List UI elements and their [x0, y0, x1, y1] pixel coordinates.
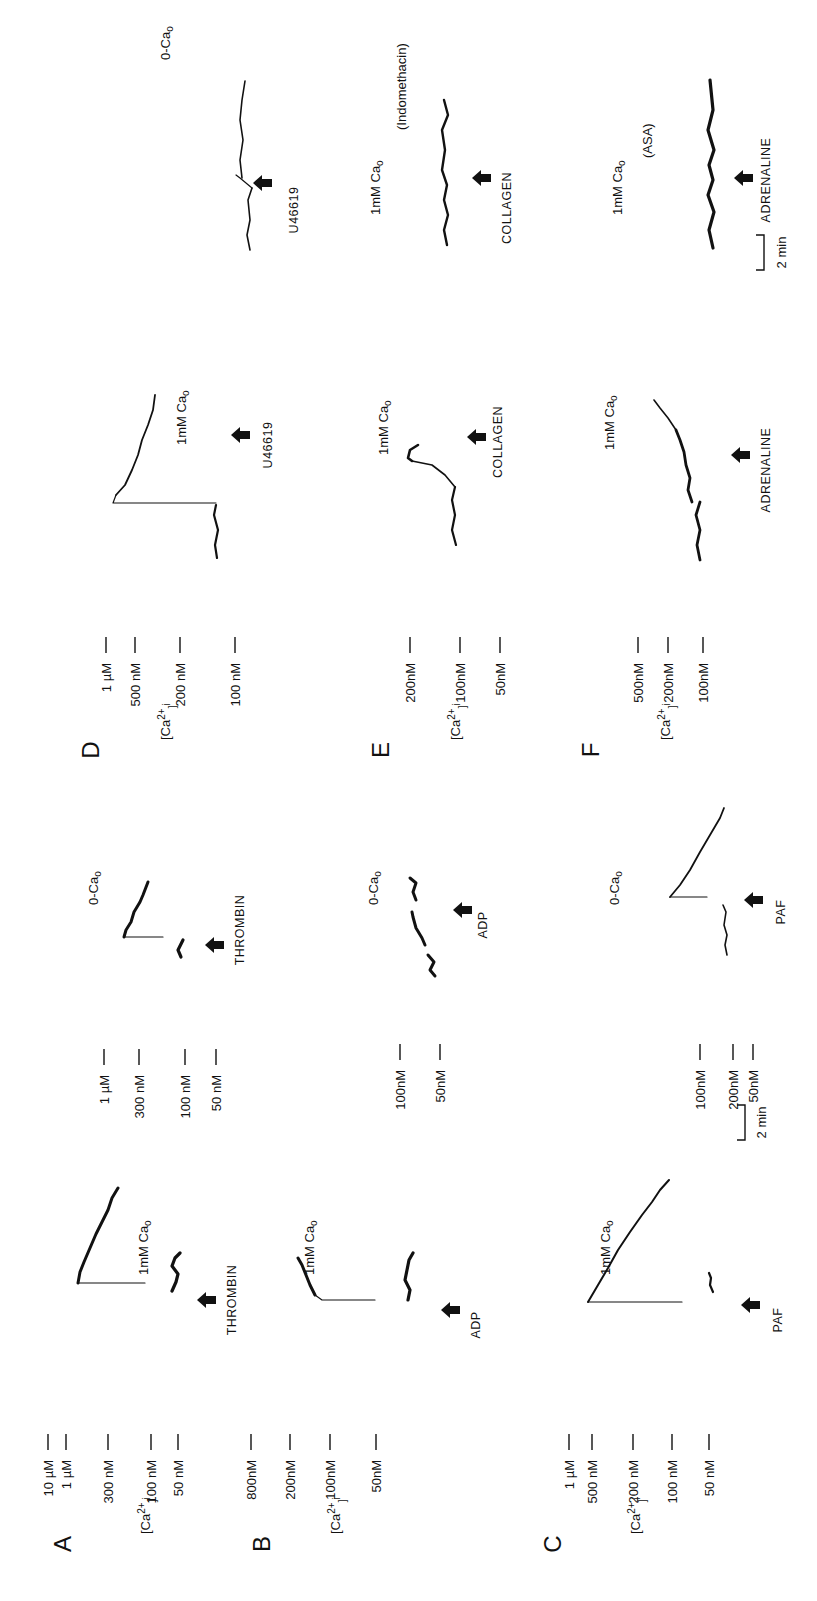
time-scale-bars: 2 min2 min — [737, 235, 789, 1140]
condition-label: 0-Cao — [366, 871, 383, 905]
agonist-arrows — [197, 170, 763, 1318]
tick-label: 50nM — [746, 1070, 761, 1103]
up-arrow-icon — [453, 902, 472, 918]
calcium-trace — [405, 1253, 413, 1300]
tick-label: 1 µM — [59, 1460, 74, 1489]
up-arrow-icon — [731, 447, 750, 463]
tick-label: 100nM — [693, 1070, 708, 1110]
tick-label: 300 nM — [101, 1460, 116, 1503]
condition-label: 1mM Cao — [376, 400, 393, 455]
panel-letter-c: C — [539, 1535, 566, 1552]
condition-label: (Indomethacin) — [394, 43, 409, 130]
up-arrow-icon — [231, 427, 250, 443]
tick-label: 300 nM — [132, 1075, 147, 1118]
tick-label: 1 µM — [562, 1460, 577, 1489]
calcium-trace — [412, 912, 425, 945]
condition-label: 1mM Cao — [136, 1220, 153, 1275]
condition-label: 1mM Cao — [598, 1220, 615, 1275]
figure-svg: 10 µM1 µM300 nM100 nM50 nM800nM200nM100n… — [0, 0, 817, 1601]
calcium-trace — [452, 487, 456, 545]
condition-label: 1mM Cao — [368, 160, 385, 215]
time-scale-label: 2 min — [754, 1107, 769, 1139]
calcium-trace — [676, 430, 692, 502]
tick-label: 200nM — [403, 663, 418, 703]
condition-label: 0-Cao — [607, 871, 624, 905]
tick-label: 800nM — [244, 1460, 259, 1500]
calcium-trace — [247, 188, 252, 250]
calcium-trace — [116, 395, 155, 495]
tick-label: 50 nM — [702, 1460, 717, 1496]
up-arrow-icon — [472, 170, 491, 186]
condition-label: (ASA) — [640, 123, 655, 158]
axis-ticks: 10 µM1 µM300 nM100 nM50 nM800nM200nM100n… — [41, 637, 761, 1503]
text-labels: A[Ca2+]iB[Ca2+]iC[Ca2+]iD[Ca2+]iE[Ca2+]i… — [49, 26, 788, 1553]
ca-concentration-ylabel: [Ca2+]i — [656, 703, 678, 740]
tick-label: 100 nM — [178, 1075, 193, 1118]
calcium-trace — [236, 175, 252, 188]
agonist-label: THROMBIN — [233, 895, 247, 966]
tick-label: 100nM — [696, 663, 711, 703]
tick-label: 100nM — [453, 663, 468, 703]
panel-letter-a: A — [49, 1536, 76, 1552]
calcium-trace — [240, 81, 245, 178]
calcium-trace — [696, 502, 700, 560]
calcium-trace — [709, 1273, 713, 1292]
condition-label: 1mM Cao — [302, 1220, 319, 1275]
panel-letter-b: B — [248, 1536, 275, 1552]
tick-label: 50 nM — [209, 1075, 224, 1111]
figure-canvas: 10 µM1 µM300 nM100 nM50 nM800nM200nM100n… — [0, 0, 817, 1601]
agonist-label: ADRENALINE — [759, 428, 773, 513]
tick-label: 100 nM — [144, 1460, 159, 1503]
up-arrow-icon — [197, 1292, 216, 1308]
ca-concentration-ylabel: [Ca2+]i — [156, 703, 178, 740]
condition-label: 1mM Cao — [174, 390, 191, 445]
condition-label: 0-Cao — [158, 26, 175, 60]
calcium-trace — [78, 1188, 118, 1283]
agonist-label: ADP — [469, 1311, 483, 1338]
calcium-trace — [442, 100, 448, 245]
tick-label: 10 µM — [41, 1460, 56, 1496]
tick-label: 100nM — [393, 1070, 408, 1110]
agonist-label: PAF — [771, 1308, 785, 1333]
tick-label: 1 µM — [97, 1075, 112, 1104]
tick-label: 500 nM — [585, 1460, 600, 1503]
tick-label: 50 nM — [171, 1460, 186, 1496]
tick-label: 500 nM — [128, 663, 143, 706]
tick-label: 200 nM — [173, 663, 188, 706]
condition-label: 1mM Cao — [602, 395, 619, 450]
agonist-label: ADRENALINE — [759, 138, 773, 223]
tick-label: 200nM — [726, 1070, 741, 1110]
tick-label: 200 nM — [626, 1460, 641, 1503]
agonist-label: U46619 — [261, 422, 275, 469]
up-arrow-icon — [253, 175, 272, 191]
calcium-trace — [178, 940, 183, 957]
calcium-trace — [410, 878, 416, 900]
calcium-trace — [428, 955, 435, 976]
time-scale-label: 2 min — [774, 237, 789, 269]
up-arrow-icon — [467, 429, 486, 445]
agonist-label: U46619 — [287, 187, 301, 234]
up-arrow-icon — [441, 1302, 460, 1318]
tick-label: 1 µM — [99, 663, 114, 692]
tick-label: 50nM — [369, 1460, 384, 1493]
panel-letter-e: E — [367, 742, 394, 758]
calcium-trace — [214, 505, 218, 558]
ca-concentration-ylabel: [Ca2+]i — [626, 1497, 648, 1534]
calcium-trace — [113, 495, 216, 503]
up-arrow-icon — [744, 892, 763, 908]
panel-letter-f: F — [577, 743, 604, 758]
calcium-trace — [670, 808, 724, 897]
panel-letter-d: D — [77, 741, 104, 758]
calcium-trace — [708, 80, 714, 248]
up-arrow-icon — [741, 1297, 760, 1313]
calcium-trace — [172, 1253, 180, 1291]
tick-label: 50nM — [493, 663, 508, 696]
tick-label: 200nM — [283, 1460, 298, 1500]
up-arrow-icon — [205, 937, 224, 953]
tick-label: 100 nM — [228, 663, 243, 706]
time-scale-bar — [756, 235, 764, 270]
up-arrow-icon — [734, 170, 753, 186]
ca-concentration-ylabel: [Ca2+]i — [326, 1497, 348, 1534]
calcium-trace — [408, 445, 418, 461]
calcium-trace — [315, 1295, 375, 1300]
